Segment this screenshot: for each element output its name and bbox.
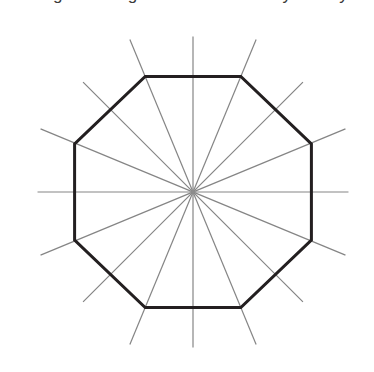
center-point xyxy=(191,190,195,194)
figure-root: A regular octagon and its lines of symme… xyxy=(0,0,374,372)
octagon-symmetry-diagram xyxy=(0,0,374,372)
